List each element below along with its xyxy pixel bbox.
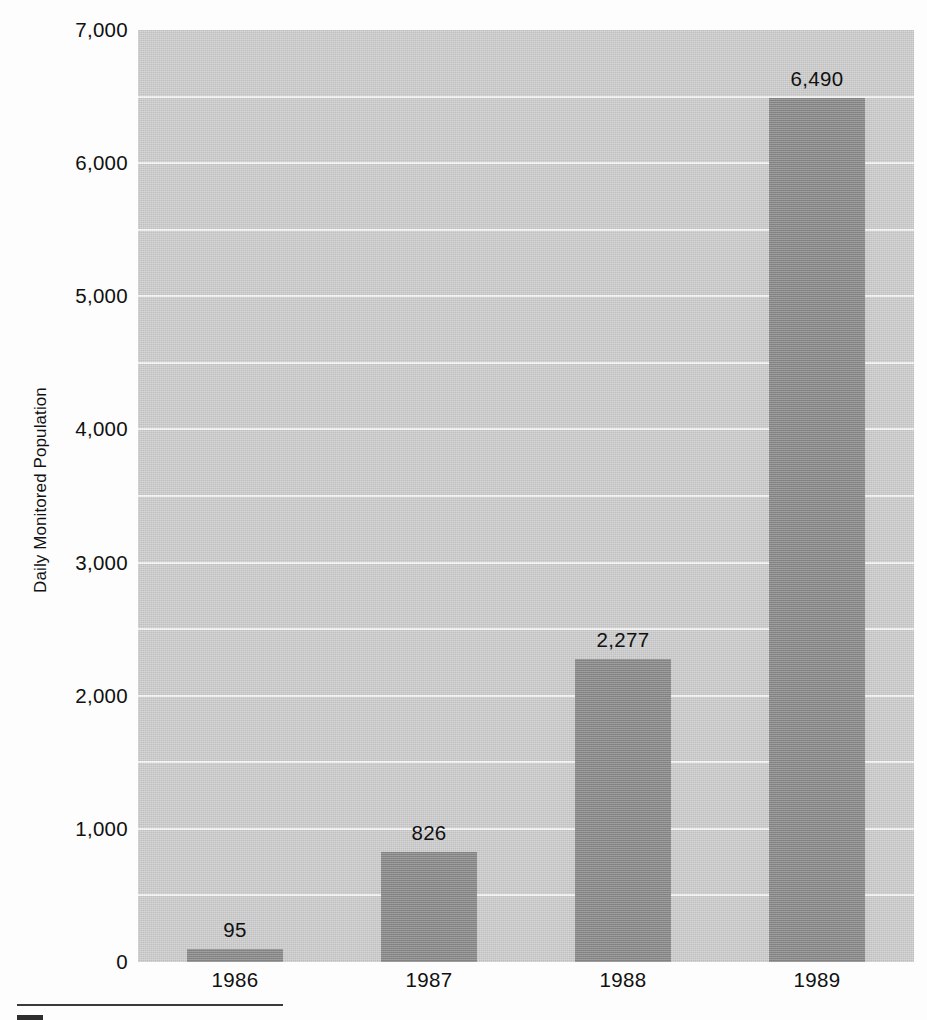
bar-value-label: 6,490: [791, 67, 844, 91]
bar: [187, 949, 283, 962]
bar: [769, 98, 865, 962]
y-axis-tick-label: 5,000: [10, 284, 128, 308]
x-axis-tick-label: 1987: [406, 968, 453, 992]
y-axis-tick-label: 4,000: [10, 417, 128, 441]
plot-area: [138, 30, 914, 962]
x-axis-tick-labels: 1986198719881989: [0, 968, 927, 1002]
y-axis-tick-label: 2,000: [10, 684, 128, 708]
footer-rule: [17, 1004, 283, 1006]
x-axis-tick-label: 1989: [794, 968, 841, 992]
y-axis-tick-label: 7,000: [10, 18, 128, 42]
bar-chart: Daily Monitored Population 01,0002,0003,…: [0, 0, 927, 1020]
footer-mark: [17, 1015, 43, 1020]
y-axis-tick-labels: 01,0002,0003,0004,0005,0006,0007,000: [0, 0, 128, 1020]
y-axis-tick-label: 3,000: [10, 551, 128, 575]
bar: [381, 852, 477, 962]
x-axis-tick-label: 1988: [600, 968, 647, 992]
y-axis-tick-label: 1,000: [10, 817, 128, 841]
bar-value-label: 2,277: [597, 628, 650, 652]
bar-value-label: 95: [223, 918, 246, 942]
bar-value-label: 826: [411, 821, 446, 845]
y-axis-tick-label: 6,000: [10, 151, 128, 175]
bar: [575, 659, 671, 962]
x-axis-tick-label: 1986: [212, 968, 259, 992]
